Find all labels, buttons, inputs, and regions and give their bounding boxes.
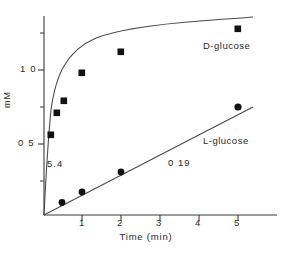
- x-tick-label-1: 1: [79, 217, 85, 228]
- plot-canvas: [0, 0, 288, 256]
- series-label-l-glucose: L-glucose: [203, 135, 249, 146]
- y-tick-label-0-5: 0 5: [18, 137, 35, 148]
- x-axis-label: Time (min): [119, 231, 172, 242]
- y-axis-label: mM: [2, 91, 12, 108]
- series-markers-l-glucose: [59, 103, 242, 206]
- annotation-slope-d-glucose: 5.4: [47, 158, 63, 169]
- series-label-d-glucose: D-glucose: [203, 40, 250, 51]
- annotation-slope-l-glucose: 0 19: [168, 157, 191, 168]
- x-tick-label-2: 2: [117, 217, 123, 228]
- y-axis-minor-ticks: [40, 33, 44, 181]
- series-line-l-glucose: [44, 107, 253, 215]
- chart-figure: mM Time (min) 1 0 0 5 1 2 3 4 5 5.4 0 19…: [0, 0, 288, 256]
- x-tick-label-3: 3: [156, 217, 162, 228]
- y-tick-label-1-0: 1 0: [20, 63, 37, 74]
- x-tick-label-4: 4: [195, 217, 201, 228]
- x-tick-label-5: 5: [234, 217, 240, 228]
